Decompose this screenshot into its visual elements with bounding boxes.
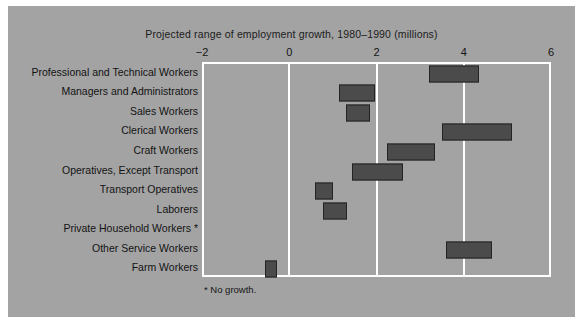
x-tick-label-2: 2 (373, 46, 379, 58)
category-label-1: Managers and Administrators (18, 85, 198, 97)
category-label-8: Private Household Workers * (18, 222, 198, 234)
category-label-3: Clerical Workers (18, 124, 198, 136)
category-label-10: Farm Workers (18, 261, 198, 273)
range-bar-7 (323, 202, 347, 219)
range-bar-2 (346, 104, 370, 121)
range-bar-4 (387, 143, 435, 160)
category-label-5: Operatives, Except Transport (18, 164, 198, 176)
category-label-0: Professional and Technical Workers (18, 66, 198, 78)
category-label-2: Sales Workers (18, 105, 198, 117)
x-tick-label-1: 0 (286, 46, 292, 58)
range-bar-10 (265, 261, 277, 278)
category-axis-labels: Professional and Technical WorkersManage… (18, 62, 198, 277)
range-bar-1 (339, 85, 375, 102)
range-bar-0 (429, 65, 479, 82)
category-label-7: Laborers (18, 203, 198, 215)
range-bar-3 (442, 124, 512, 141)
gridline-x-0 (288, 64, 290, 275)
category-label-9: Other Service Workers (18, 242, 198, 254)
range-bar-9 (446, 241, 492, 258)
x-tick-label-3: 4 (461, 46, 467, 58)
footnote: * No growth. (204, 284, 256, 295)
category-label-6: Transport Operatives (18, 183, 198, 195)
x-tick-label-0: −2 (196, 46, 209, 58)
x-tick-label-4: 6 (548, 46, 554, 58)
plot-area (202, 62, 551, 277)
chart-title: Projected range of employment growth, 19… (8, 28, 575, 40)
range-bar-5 (352, 163, 403, 180)
range-bar-6 (315, 183, 332, 200)
chart-figure: Projected range of employment growth, 19… (8, 6, 575, 317)
category-label-4: Craft Workers (18, 144, 198, 156)
